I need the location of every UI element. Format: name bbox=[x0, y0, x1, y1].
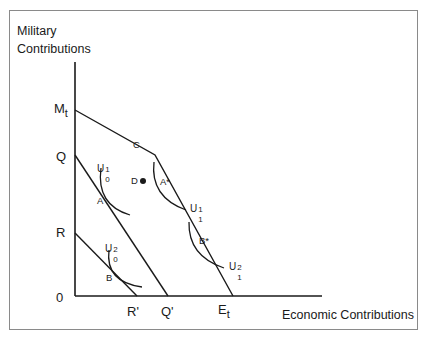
point-c-label: C bbox=[133, 140, 140, 150]
curve-label-u02: U20 bbox=[105, 244, 119, 254]
tick-q-prime: Q' bbox=[161, 305, 174, 318]
tick-et: Et bbox=[218, 303, 230, 320]
origin-label: 0 bbox=[56, 291, 63, 304]
point-b-star-label: B* bbox=[199, 236, 209, 246]
point-a-label: A bbox=[97, 196, 103, 206]
point-b-label: B bbox=[106, 273, 112, 283]
curve-label-u11: U11 bbox=[190, 204, 204, 214]
tick-r: R bbox=[56, 226, 65, 239]
y-axis-title-line2: Contributions bbox=[17, 43, 91, 56]
x-axis-title: Economic Contributions bbox=[282, 309, 414, 322]
y-axis-title-line1: Military bbox=[17, 25, 57, 38]
tick-q: Q bbox=[56, 150, 66, 163]
point-d-label: D bbox=[131, 176, 138, 186]
point-a-star-label: A* bbox=[160, 177, 170, 187]
tick-mt: Mt bbox=[54, 102, 68, 119]
point-d-dot bbox=[140, 178, 146, 184]
curve-label-u01: U10 bbox=[97, 164, 111, 174]
tick-r-prime: R' bbox=[127, 305, 139, 318]
curve-label-u12: U21 bbox=[229, 262, 243, 272]
